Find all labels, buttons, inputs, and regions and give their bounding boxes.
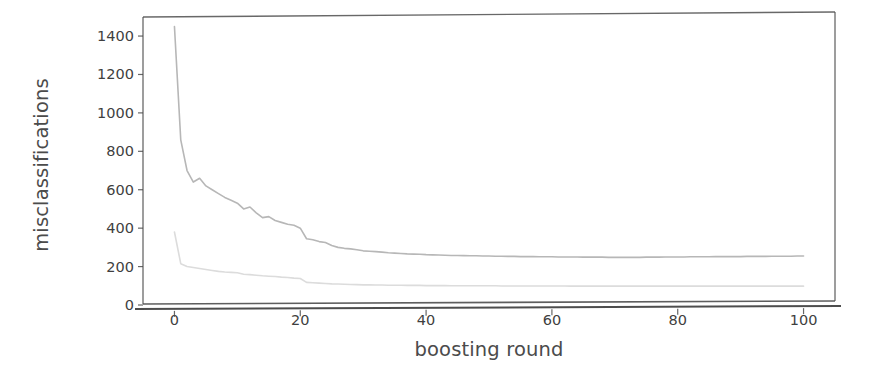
- axis-spines: [135, 12, 841, 309]
- series-line-upper-curve: [174, 26, 803, 257]
- chart-figure: misclassifications 020040060080010001200…: [0, 0, 888, 383]
- axis-tick-marks: [138, 36, 804, 317]
- chart-canvas: [0, 0, 888, 383]
- data-series-lines: [174, 26, 803, 286]
- series-line-lower-curve: [174, 232, 803, 286]
